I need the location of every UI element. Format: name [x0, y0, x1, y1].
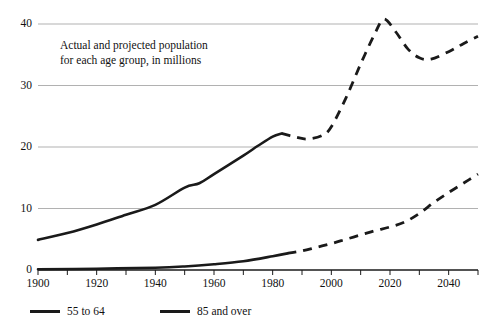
x-tick-label: 2000 [308, 278, 354, 290]
chart-legend: 55 to 64 85 and over [30, 306, 470, 326]
legend-item-55-to-64: 55 to 64 [30, 306, 105, 318]
x-tick-label: 1940 [132, 278, 178, 290]
legend-item-85-and-over: 85 and over [160, 306, 251, 318]
x-axis-ticks [38, 270, 478, 275]
legend-swatch-icon [30, 310, 60, 313]
y-tick-label: 0 [6, 264, 32, 276]
y-tick-label: 30 [6, 80, 32, 92]
x-tick-label: 2020 [367, 278, 413, 290]
x-tick-label: 1920 [74, 278, 120, 290]
population-line-chart: 010203040 190019201940196019802000202020… [0, 0, 494, 329]
y-tick-label: 20 [6, 141, 32, 153]
y-tick-label: 40 [6, 18, 32, 30]
legend-label: 55 to 64 [67, 306, 105, 318]
x-tick-label: 1900 [15, 278, 61, 290]
legend-swatch-icon [160, 310, 190, 313]
x-tick-label: 2040 [426, 278, 472, 290]
y-tick-label: 10 [6, 203, 32, 215]
x-tick-label: 1960 [191, 278, 237, 290]
x-tick-label: 1980 [250, 278, 296, 290]
chart-annotation: Actual and projected population for each… [60, 38, 208, 68]
legend-label: 85 and over [197, 306, 251, 318]
